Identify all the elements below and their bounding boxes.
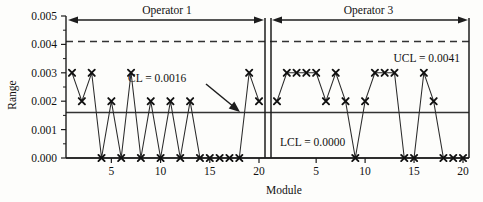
x-tick-label: 15 (204, 165, 216, 177)
operator-3-span-arrow (272, 16, 468, 23)
arrow-head-right (458, 16, 468, 23)
x-axis-tick-labels: 51015205101520 (108, 165, 469, 177)
y-axis-tick-labels: 0.0000.0010.0020.0030.0040.005 (31, 10, 57, 164)
y-tick-label: 0.001 (31, 124, 57, 136)
series-polyline (72, 73, 259, 158)
control-chart-canvas: 0.0000.0010.0020.0030.0040.005 510152051… (0, 0, 483, 202)
data-point-marker (323, 98, 329, 104)
data-point-marker (274, 98, 280, 104)
y-tick-label: 0.005 (31, 10, 57, 22)
x-tick-label: 5 (313, 165, 319, 177)
data-point-marker (79, 98, 85, 104)
data-point-marker (256, 98, 262, 104)
x-axis-title: Module (266, 184, 302, 196)
x-tick-label: 20 (253, 165, 265, 177)
y-tick-label: 0.000 (31, 152, 57, 164)
x-tick-label: 15 (408, 165, 420, 177)
data-point-marker (333, 70, 339, 76)
data-point-marker (69, 70, 75, 76)
x-tick-label: 10 (359, 165, 371, 177)
x-tick-label: 5 (108, 165, 114, 177)
operator-3-label: Operator 3 (344, 4, 394, 17)
y-tick-label: 0.002 (31, 95, 57, 107)
y-axis-title: Range (6, 80, 19, 109)
ucl-callout-label: UCL = 0.0041 (394, 52, 461, 64)
control-chart: 0.0000.0010.0020.0030.0040.005 510152051… (0, 0, 483, 202)
arrow-head-right (254, 16, 264, 23)
x-tick-label: 10 (155, 165, 167, 177)
y-tick-label: 0.004 (31, 38, 57, 50)
operator-1-label: Operator 1 (142, 4, 192, 17)
x-tick-label: 20 (457, 165, 469, 177)
cl-callout-arrow (206, 84, 240, 112)
y-tick-label: 0.003 (31, 67, 57, 79)
operator-1-span-arrow (68, 16, 264, 23)
arrow-head-left (68, 16, 78, 23)
arrow-head-left (272, 16, 282, 23)
cl-callout-label: CL = 0.0016 (128, 72, 186, 84)
lcl-callout-label: LCL = 0.0000 (280, 136, 345, 148)
